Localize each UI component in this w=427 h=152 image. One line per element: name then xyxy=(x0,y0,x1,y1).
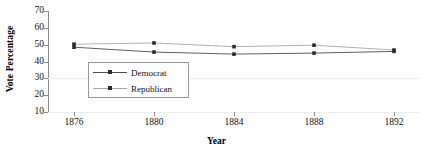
x-tick-mark xyxy=(234,112,235,116)
legend-label-democrat: Democrat xyxy=(127,69,166,78)
y-tick-label: 30 xyxy=(35,74,45,84)
y-axis-title-text: Vote Percentage xyxy=(5,26,15,93)
y-tick-label: 70 xyxy=(35,6,45,16)
legend-item-democrat: Democrat xyxy=(89,65,188,81)
legend-item-republican: Republican xyxy=(89,81,188,97)
y-axis-tick-labels: 70605040302010 xyxy=(20,0,46,125)
x-axis-title-text: Year xyxy=(207,136,226,146)
data-point xyxy=(232,52,236,56)
y-tick-label: 20 xyxy=(35,90,45,100)
line-chart: Vote Percentage 70605040302010 187618801… xyxy=(0,0,427,152)
x-tick-mark xyxy=(394,112,395,116)
x-tick-label: 1892 xyxy=(385,118,404,128)
data-point xyxy=(232,45,236,49)
x-tick-label: 1888 xyxy=(305,118,324,128)
data-point xyxy=(72,42,76,46)
y-tick-label: 60 xyxy=(35,23,45,33)
legend-label-republican: Republican xyxy=(127,85,172,94)
x-tick-mark xyxy=(74,112,75,116)
data-point xyxy=(392,48,396,52)
x-axis-title: Year xyxy=(0,136,427,146)
data-point xyxy=(312,43,316,47)
legend-key-republican xyxy=(93,83,127,95)
legend-marker-democrat xyxy=(108,70,112,74)
data-point xyxy=(152,41,156,45)
y-tick-label: 50 xyxy=(35,40,45,50)
x-tick-label: 1876 xyxy=(65,118,84,128)
y-axis-title: Vote Percentage xyxy=(0,0,20,118)
x-tick-mark xyxy=(154,112,155,116)
legend-key-democrat xyxy=(93,67,127,79)
data-point xyxy=(312,51,316,55)
y-tick-label: 40 xyxy=(35,57,45,67)
y-tick-label: 10 xyxy=(35,107,45,117)
data-point xyxy=(152,50,156,54)
legend-marker-republican xyxy=(108,86,112,90)
legend: Democrat Republican xyxy=(88,62,189,98)
x-tick-label: 1880 xyxy=(145,118,164,128)
x-tick-label: 1884 xyxy=(225,118,244,128)
x-tick-mark xyxy=(314,112,315,116)
